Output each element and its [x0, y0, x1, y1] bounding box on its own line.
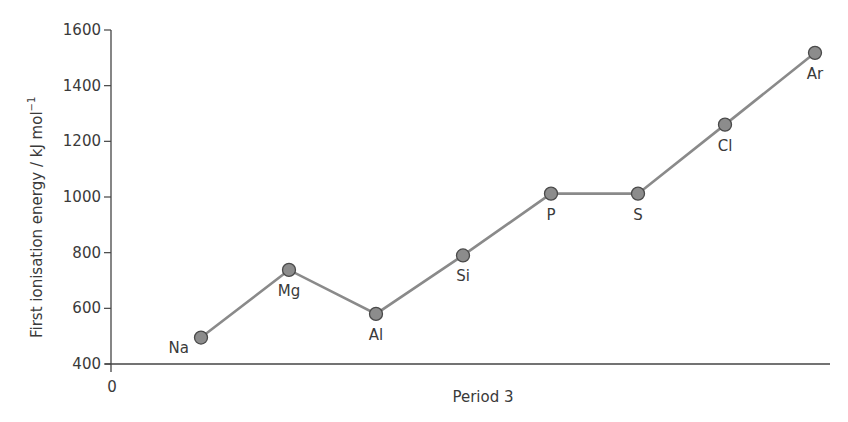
y-tick-label: 800	[72, 244, 101, 262]
x-origin-label: 0	[107, 378, 117, 396]
y-tick-label: 1200	[63, 132, 101, 150]
y-tick-label: 600	[72, 299, 101, 317]
data-point-label: Mg	[278, 282, 300, 300]
data-point-label: Al	[369, 326, 383, 344]
y-axis-ticks: 4006008001000120014001600	[63, 21, 111, 373]
data-point-marker	[719, 118, 732, 131]
y-tick-label: 1400	[63, 77, 101, 95]
data-point-label: P	[546, 206, 555, 224]
x-axis-title: Period 3	[452, 388, 513, 406]
data-point-marker	[195, 331, 208, 344]
y-axis-title: First ionisation energy / kJ mol−1	[26, 97, 46, 338]
y-tick-label: 1000	[63, 188, 101, 206]
data-point-marker	[370, 307, 383, 320]
y-axis-title-text: First ionisation energy / kJ mol	[28, 111, 46, 338]
series-line: NaMgAlSiPSClAr	[169, 46, 824, 356]
data-point-label: Na	[169, 339, 189, 357]
y-tick-label: 1600	[63, 21, 101, 39]
y-axis-title-sup: −1	[26, 97, 37, 112]
data-point-marker	[545, 187, 558, 200]
data-point-marker	[283, 263, 296, 276]
y-tick-label: 400	[72, 355, 101, 373]
data-point-marker	[632, 187, 645, 200]
data-point-label: Cl	[718, 137, 733, 155]
data-point-label: Ar	[807, 65, 824, 83]
data-point-marker	[809, 46, 822, 59]
data-point-label: Si	[456, 267, 470, 285]
data-point-marker	[457, 249, 470, 262]
data-point-label: S	[633, 206, 643, 224]
ionisation-energy-chart: 4006008001000120014001600 0 Period 3 Fir…	[0, 0, 848, 422]
